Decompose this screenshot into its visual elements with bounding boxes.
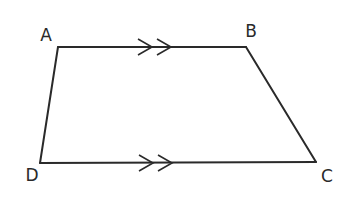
vertex-label-d: D <box>25 165 38 185</box>
edge-cd <box>40 162 316 163</box>
edge-bc <box>246 47 316 162</box>
vertex-label-a: A <box>40 25 52 45</box>
trapezium-diagram: A B C D <box>0 0 352 198</box>
trapezium-shape <box>40 47 316 163</box>
vertex-label-b: B <box>245 21 257 41</box>
parallel-marks <box>138 39 172 171</box>
diagram-canvas: A B C D <box>0 0 352 198</box>
edge-da <box>40 47 58 163</box>
vertex-label-c: C <box>321 166 333 186</box>
